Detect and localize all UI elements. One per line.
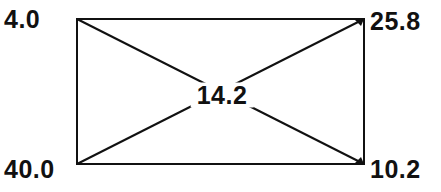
center-label: 14.2 — [191, 83, 254, 108]
corner-label-top-right: 25.8 — [370, 9, 421, 34]
corner-label-bottom-right: 10.2 — [370, 157, 421, 182]
corner-label-bottom-left: 40.0 — [4, 157, 55, 182]
corner-label-top-left: 4.0 — [4, 7, 40, 32]
